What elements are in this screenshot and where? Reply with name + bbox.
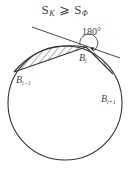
geometry-figure: 180° Bi Bi−1 Bi+1 — [0, 0, 130, 176]
label-b-i-minus-1: Bi−1 — [16, 74, 31, 86]
label-b-i-plus-1: Bi+1 — [101, 93, 116, 105]
label-b-i: Bi — [79, 52, 87, 64]
angle-label: 180° — [82, 26, 101, 37]
